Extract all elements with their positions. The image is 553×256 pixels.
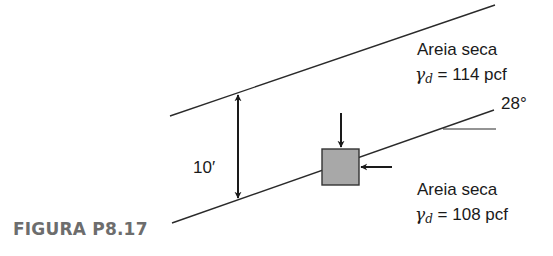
- slope-angle-label: 28°: [501, 94, 527, 114]
- gamma-subscript: d: [425, 72, 433, 86]
- upper-slope-surface: [170, 5, 495, 116]
- figure-caption: FIGURA P8.17: [13, 219, 148, 239]
- equals-sign: =: [438, 205, 448, 224]
- unit-weight-value: 108 pcf: [452, 205, 508, 224]
- soil-element-square: [322, 149, 359, 185]
- equals-sign: =: [438, 65, 448, 84]
- gamma-symbol: γ: [415, 204, 425, 224]
- thickness-label: 10′: [193, 158, 215, 178]
- lower-layer-unit-weight: γd = 108 pcf: [415, 204, 508, 226]
- upper-layer-unit-weight: γd = 114 pcf: [415, 64, 507, 86]
- gamma-symbol: γ: [415, 64, 425, 84]
- unit-weight-value: 114 pcf: [452, 65, 507, 84]
- gamma-subscript: d: [425, 212, 433, 226]
- upper-layer-name: Areia seca: [417, 40, 497, 60]
- lower-layer-name: Areia seca: [417, 180, 497, 200]
